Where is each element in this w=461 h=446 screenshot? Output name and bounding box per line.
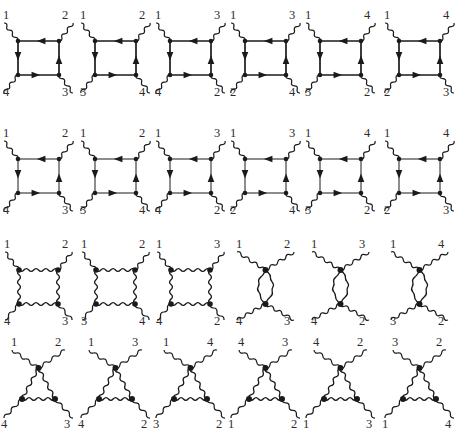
vertex-bottom-left [93,301,99,307]
vertex-bottom-left [321,396,327,402]
external-leg-top-left [231,141,245,159]
triangle-edge-left [403,368,420,399]
vertex-bottom-right [438,191,443,196]
leg-label-top-left: 4 [238,336,244,349]
vertex-bottom [417,301,423,307]
arrow-right [56,55,63,64]
vertex-bottom-left [16,301,22,307]
leg-label-bottom-right: 2 [359,315,365,328]
vertex-bottom-left [96,396,102,402]
vertex-top-left [243,39,248,44]
leg-label-bottom-left: 4 [155,86,161,99]
external-leg-top-right [440,141,454,159]
loop-right [420,270,428,304]
vertex-top [36,365,42,371]
vertex-bottom-right [129,396,135,402]
arrow-right [358,55,365,64]
arrow-left [15,52,22,61]
vertex-bottom-left [171,396,177,402]
vertex-bottom-right [57,191,62,196]
vertex-bottom-right [359,73,364,78]
external-leg-bottom-left [156,399,174,418]
leg-label-bottom-left: 2 [384,204,390,217]
vertex-bottom-left [400,396,406,402]
external-leg-top-right [361,141,375,159]
external-leg-top-right [286,23,300,41]
arrow-left [15,170,22,179]
leg-label-bottom-right: 2 [214,86,220,99]
vertex-top-left [168,39,173,44]
leg-label-bottom-left: 2 [230,86,236,99]
box-edge-left [170,270,173,304]
box-edge-bottom [96,303,135,306]
leg-label-bottom-left: 3 [80,86,86,99]
box-edge-top [19,269,58,272]
leg-label-top-left: 1 [230,9,236,22]
arrow-top [189,38,198,45]
loop-right [341,270,349,304]
vertex-top-right [438,157,443,162]
external-leg-bottom-right [282,399,300,418]
vertex-bottom [338,301,344,307]
leg-label-bottom-left: 4 [155,204,161,217]
leg-label-top-left: 1 [80,127,86,140]
vertex-top-right [209,157,214,162]
leg-label-bottom-left: 1 [382,418,388,431]
triangle-edge-left [22,368,39,399]
box-edge-right [57,270,60,304]
external-leg-top-left [237,252,266,270]
external-leg-bottom-left [306,399,324,418]
vertex-bottom-right [354,396,360,402]
leg-label-bottom-right: 3 [64,418,70,431]
diagram-r4-c3: 1432 [152,336,229,436]
arrow-right [133,173,140,182]
leg-label-bottom-right: 2 [291,418,297,431]
leg-label-bottom-right: 2 [214,315,220,328]
leg-label-top-right: 3 [289,9,295,22]
leg-label-top-left: 4 [313,336,319,349]
triangle-edge-bottom [174,398,207,401]
vertex-top [417,365,423,371]
vertex-bottom-right [433,396,439,402]
leg-label-bottom-right: 4 [445,418,451,431]
loop-left [333,270,341,304]
vertex-top-left [168,157,173,162]
triangle-edge-bottom [22,398,55,401]
arrow-left [92,170,99,179]
triangle-edge-bottom [403,398,436,401]
arrow-left [92,52,99,61]
leg-label-top-right: 4 [443,9,449,22]
vertex-bottom-left [168,191,173,196]
leg-label-bottom-right: 2 [364,204,370,217]
diagram-r3-c5: 1342 [302,236,379,331]
vertex-bottom-right [204,396,210,402]
leg-label-bottom-right: 3 [443,86,449,99]
leg-label-bottom-left: 4 [78,418,84,431]
diagram-r3-c6: 1432 [381,236,458,331]
vertex-bottom-left [243,73,248,78]
external-leg-top-left [231,23,245,41]
external-leg-top-right [210,252,224,270]
leg-label-top-left: 1 [305,127,311,140]
diagram-r3-c1: 1243 [0,236,77,331]
feynman-diagram-figure: 1243123413421324143214231243123413421324… [0,0,461,446]
vertex-bottom-right [52,396,58,402]
external-leg-top-left [82,252,96,270]
vertex-bottom-right [207,301,213,307]
external-leg-bottom-left [81,399,99,418]
vertex-top [188,365,194,371]
leg-label-bottom-right: 4 [289,204,295,217]
external-leg-top-left [306,23,320,41]
arrow-top [264,38,273,45]
external-leg-bottom-left [4,399,22,418]
leg-label-top-right: 2 [284,238,290,251]
external-leg-top-left [385,141,399,159]
arrow-right [358,173,365,182]
arrow-right [56,173,63,182]
external-leg-top-left [385,23,399,41]
vertex-top-left [93,267,99,273]
arrow-right [133,55,140,64]
vertex-bottom-left [397,73,402,78]
arrow-bottom [334,72,343,79]
vertex-top-right [134,39,139,44]
